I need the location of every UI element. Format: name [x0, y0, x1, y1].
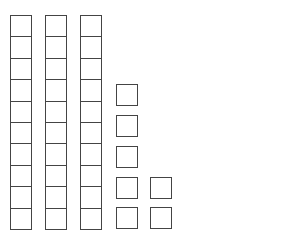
rod-cell: [45, 165, 67, 187]
rod-cell: [45, 122, 67, 144]
unit-cube: [116, 84, 138, 106]
rod-cell: [10, 101, 32, 123]
rod-cell: [10, 58, 32, 80]
rod-cell: [80, 186, 102, 208]
rod-cell: [80, 143, 102, 165]
rod-cell: [10, 208, 32, 230]
base-ten-blocks-diagram: [0, 0, 288, 241]
unit-cube: [116, 115, 138, 137]
unit-cube: [116, 207, 138, 229]
rod-cell: [10, 186, 32, 208]
tens-rod: [80, 15, 102, 229]
rod-cell: [45, 143, 67, 165]
rod-cell: [80, 122, 102, 144]
unit-cube: [116, 146, 138, 168]
rod-cell: [10, 122, 32, 144]
rod-cell: [45, 101, 67, 123]
rod-cell: [80, 79, 102, 101]
rod-cell: [10, 79, 32, 101]
rod-cell: [45, 186, 67, 208]
unit-cube: [150, 177, 172, 199]
tens-rod: [45, 15, 67, 229]
rod-cell: [45, 36, 67, 58]
tens-rod: [10, 15, 32, 229]
rod-cell: [10, 36, 32, 58]
rod-cell: [45, 79, 67, 101]
unit-cube: [116, 177, 138, 199]
rod-cell: [80, 36, 102, 58]
rod-cell: [10, 15, 32, 37]
unit-cube: [150, 207, 172, 229]
rod-cell: [10, 165, 32, 187]
rod-cell: [45, 208, 67, 230]
rod-cell: [80, 58, 102, 80]
rod-cell: [80, 208, 102, 230]
rod-cell: [45, 58, 67, 80]
rod-cell: [80, 101, 102, 123]
rod-cell: [45, 15, 67, 37]
rod-cell: [80, 15, 102, 37]
rod-cell: [80, 165, 102, 187]
rod-cell: [10, 143, 32, 165]
